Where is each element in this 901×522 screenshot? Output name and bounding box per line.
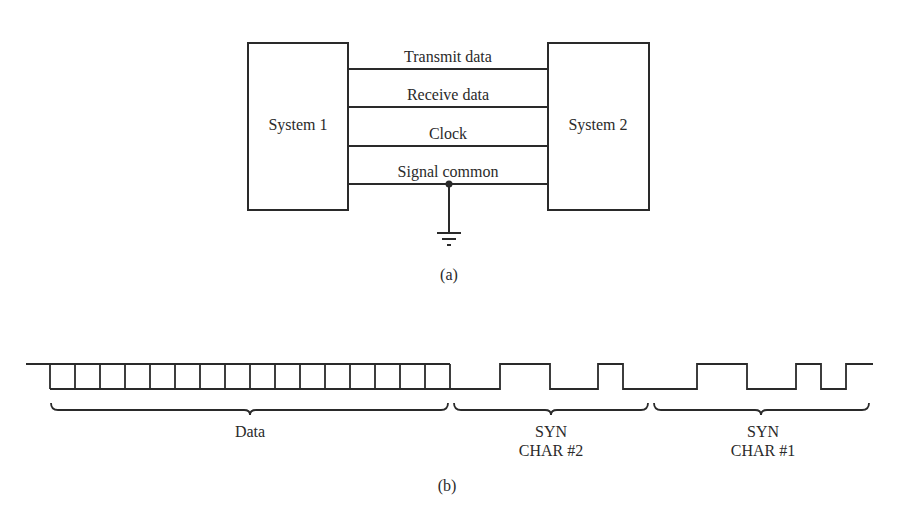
clock-label: Clock	[429, 125, 467, 142]
data-brace	[51, 403, 448, 415]
figure-b: Data SYN CHAR #2 SYN CHAR #1 (b)	[26, 364, 873, 495]
signal-common-label: Signal common	[398, 163, 499, 181]
syn-char-1-label: SYN	[747, 423, 779, 440]
syn-char-2-label: SYN	[535, 423, 567, 440]
syn-char-2-sublabel: CHAR #2	[519, 442, 583, 459]
system-1-label: System 1	[268, 116, 327, 134]
caption-b: (b)	[438, 477, 457, 495]
caption-a: (a)	[440, 266, 458, 284]
ground-icon	[437, 181, 461, 246]
transmit-data-label: Transmit data	[404, 48, 492, 65]
system-2-label: System 2	[568, 116, 627, 134]
syn-char-1-sublabel: CHAR #1	[731, 442, 795, 459]
receive-data-label: Receive data	[407, 86, 489, 103]
syn-char-1-brace	[654, 403, 869, 415]
syn-char-2-brace	[454, 403, 648, 415]
data-label: Data	[235, 423, 265, 440]
figure-a: System 1 System 2 Transmit data Receive …	[248, 43, 649, 284]
syn-waveform	[450, 364, 873, 389]
data-bit-cells	[50, 364, 450, 389]
synchronous-transmission-figure: System 1 System 2 Transmit data Receive …	[0, 0, 901, 522]
